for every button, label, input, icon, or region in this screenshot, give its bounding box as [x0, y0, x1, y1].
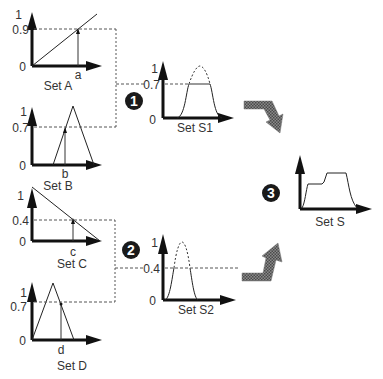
set-label: Set C	[57, 257, 87, 271]
s2-clipped-peak	[174, 242, 190, 268]
input-point-icon	[60, 303, 63, 306]
y-tick-top: 1	[15, 8, 22, 22]
y-tick-top: 1	[20, 286, 27, 300]
membership-line	[32, 14, 97, 66]
y-tick-top: 1	[151, 236, 158, 250]
set-label: Set S2	[178, 303, 214, 317]
badge-number: 3	[267, 185, 275, 201]
membership-triangle	[32, 283, 74, 340]
y-tick-zero: 0	[19, 159, 26, 173]
y-tick-level: 0.4	[143, 262, 160, 276]
y-tick-level: 0.7	[10, 300, 27, 314]
membership-triangle	[53, 106, 94, 165]
rule-2-connector	[115, 220, 143, 302]
input-label: a	[75, 68, 82, 82]
s1-right-edge	[210, 84, 222, 118]
y-tick-level: 0.7	[12, 121, 29, 135]
set-label: Set B	[43, 179, 72, 193]
x-axis-arrow-icon	[218, 113, 234, 123]
y-tick-zero: 0	[149, 113, 156, 127]
s1-clipped-peak	[189, 66, 210, 84]
up-right-arrow-icon	[242, 243, 282, 281]
y-tick-top: 1	[17, 189, 24, 203]
y-tick-zero: 0	[149, 294, 156, 308]
x-axis-arrow-icon	[356, 204, 372, 214]
aggregated-output-curve	[302, 173, 357, 208]
membership-line	[32, 187, 100, 241]
chart-set-s: Set S	[295, 155, 372, 229]
badge-number: 1	[130, 93, 138, 109]
x-axis-arrow-icon	[220, 295, 236, 305]
chart-set-c: 1 0.4 0 c Set C	[12, 187, 115, 271]
s2-left-edge	[165, 268, 174, 300]
step-badge-2: 2	[122, 241, 140, 259]
chart-set-d: 1 0.7 0 d Set D	[10, 282, 115, 373]
set-label: Set S	[315, 215, 344, 229]
chart-set-s2: 1 0.4 0 Set S2	[143, 234, 238, 317]
y-tick-top: 1	[20, 105, 27, 119]
fuzzy-inference-diagram: 1 0.9 0 a Set A 1 0.7 0 b Set B 1	[0, 0, 383, 379]
x-axis-arrow-icon	[86, 335, 102, 345]
y-tick-level: 0.4	[12, 214, 29, 228]
set-label: Set S1	[177, 121, 213, 135]
rule-1-connector	[116, 29, 144, 127]
set-label: Set D	[57, 359, 87, 373]
arrow-s1-to-s	[244, 101, 283, 133]
x-axis-arrow-icon	[86, 61, 102, 71]
y-tick-zero: 0	[19, 235, 26, 249]
input-label: d	[58, 343, 65, 357]
chart-set-b: 1 0.7 0 b Set B	[12, 105, 116, 193]
chart-set-s1: 1 0.7 0 Set S1	[143, 61, 234, 135]
y-axis-arrow-icon	[158, 234, 168, 254]
set-label: Set A	[44, 79, 73, 93]
y-tick-zero: 0	[19, 60, 26, 74]
s1-left-edge	[177, 84, 189, 118]
y-tick-level: 0.7	[143, 78, 160, 92]
y-axis-arrow-icon	[27, 282, 37, 302]
input-arrow-icon	[63, 127, 67, 133]
step-badge-3: 3	[262, 184, 280, 202]
down-right-arrow-icon	[244, 101, 283, 133]
y-axis-arrow-icon	[27, 188, 37, 208]
badge-number: 2	[127, 242, 135, 258]
s2-right-edge	[190, 268, 198, 300]
y-axis-arrow-icon	[295, 155, 305, 174]
y-tick-zero: 0	[19, 334, 26, 348]
y-tick-level: 0.9	[12, 23, 29, 37]
chart-set-a: 1 0.9 0 a Set A	[12, 8, 116, 93]
step-badge-1: 1	[125, 92, 143, 110]
arrow-s2-to-s	[242, 243, 282, 281]
y-tick-top: 1	[151, 62, 158, 76]
